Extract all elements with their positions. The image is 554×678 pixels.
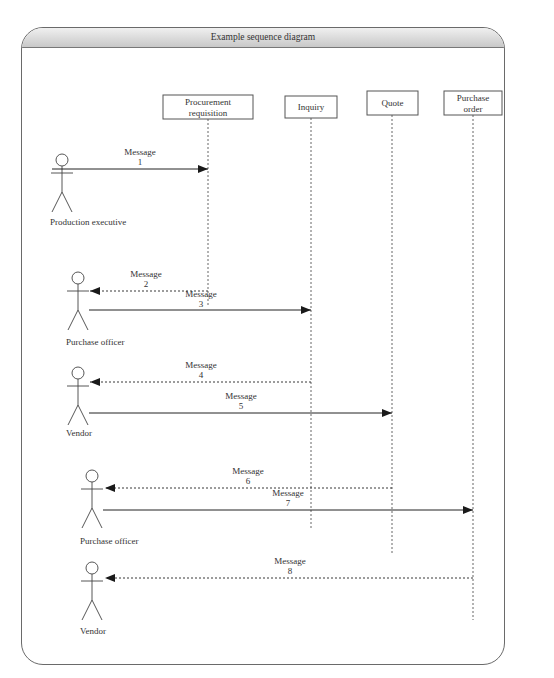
object-inquiry: Inquiry <box>285 96 337 528</box>
message-2: Message2 <box>90 269 208 291</box>
actor-leg-icon <box>68 405 78 425</box>
object-label: Inquiry <box>298 102 325 112</box>
message-number: 8 <box>288 566 293 576</box>
object-label: Procurement <box>185 97 231 107</box>
message-1: Message1 <box>52 147 208 169</box>
actor-label: Purchase officer <box>66 337 125 347</box>
object-quote: Quote <box>367 91 418 555</box>
actor-leg-icon <box>78 405 88 425</box>
message-number: 7 <box>286 498 291 508</box>
object-label: Quote <box>382 98 404 108</box>
message-number: 5 <box>239 401 244 411</box>
actor-leg-icon <box>68 310 78 330</box>
message-8: Message8 <box>105 556 473 578</box>
actor-purchase-officer: Purchase officer <box>80 470 139 546</box>
message-3: Message3 <box>89 289 311 310</box>
actor-leg-icon <box>82 600 92 620</box>
actor-label: Vendor <box>66 428 92 438</box>
message-label: Message <box>124 147 156 157</box>
message-label: Message <box>272 488 304 498</box>
message-number: 2 <box>144 279 149 289</box>
message-5: Message5 <box>89 391 392 413</box>
message-label: Message <box>185 360 217 370</box>
message-number: 1 <box>138 157 143 167</box>
actor-vendor: Vendor <box>80 562 106 636</box>
actor-leg-icon <box>92 508 102 528</box>
message-label: Message <box>274 556 306 566</box>
object-label: Purchase <box>457 93 490 103</box>
actor-head-icon <box>86 562 98 574</box>
message-7: Message7 <box>103 488 473 510</box>
messages-layer: Message1Message2Message3Message4Message5… <box>52 147 473 578</box>
message-4: Message4 <box>90 360 311 382</box>
object-procurement: Procurementrequisition <box>163 95 253 305</box>
message-label: Message <box>130 269 162 279</box>
message-number: 6 <box>246 476 251 486</box>
actor-leg-icon <box>62 192 72 212</box>
actors-layer: Production executivePurchase officerVend… <box>50 154 139 636</box>
actor-vendor: Vendor <box>66 367 92 438</box>
actor-label: Purchase officer <box>80 536 139 546</box>
actor-label: Production executive <box>50 217 126 227</box>
actor-production-executive: Production executive <box>50 154 126 227</box>
message-number: 4 <box>199 370 204 380</box>
actor-head-icon <box>86 470 98 482</box>
actor-leg-icon <box>78 310 88 330</box>
actor-head-icon <box>72 367 84 379</box>
object-label: requisition <box>189 108 228 118</box>
actor-head-icon <box>56 154 68 166</box>
object-purchase_order: Purchaseorder <box>444 91 502 620</box>
object-label: order <box>464 104 483 114</box>
objects-layer: ProcurementrequisitionInquiryQuotePurcha… <box>163 91 502 620</box>
message-label: Message <box>225 391 257 401</box>
message-label: Message <box>232 466 264 476</box>
actor-head-icon <box>72 272 84 284</box>
message-6: Message6 <box>105 466 392 488</box>
actor-label: Vendor <box>80 626 106 636</box>
actor-leg-icon <box>82 508 92 528</box>
actor-leg-icon <box>92 600 102 620</box>
sequence-diagram-canvas: ProcurementrequisitionInquiryQuotePurcha… <box>0 0 554 678</box>
actor-leg-icon <box>52 192 62 212</box>
message-number: 3 <box>199 299 204 309</box>
message-label: Message <box>185 289 217 299</box>
